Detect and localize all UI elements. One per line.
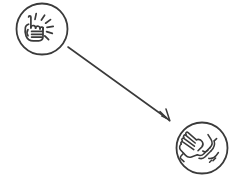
diagram-canvas: Pointing hand to clasped hands diagram: [0, 0, 244, 184]
arrow-shaft: [68, 47, 167, 118]
node-clasped-hands[interactable]: [177, 123, 228, 174]
diagram-svg: Pointing hand to clasped hands diagram: [0, 0, 244, 184]
node-pointing-hand[interactable]: [17, 4, 68, 55]
node-clasped-hands-ring: [177, 123, 228, 174]
node-pointing-hand-ring: [17, 4, 68, 55]
connector-arrow: [68, 47, 170, 121]
